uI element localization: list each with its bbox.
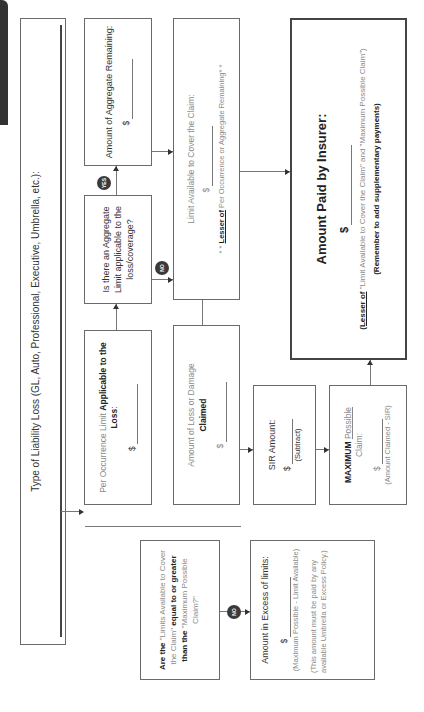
dark-tab	[0, 0, 8, 125]
divider-line	[240, 526, 241, 527]
arrow-to-paid	[367, 360, 373, 365]
excess-box: Amount in Excess of limits: $ (Maximum P…	[250, 540, 375, 680]
arrow-to-agg	[113, 166, 119, 171]
amount-claimed-dollar: $	[215, 444, 225, 449]
aggregate-remaining-field[interactable]	[123, 59, 133, 119]
aggregate-remaining-box: Amount of Aggregate Remaining: $	[84, 18, 152, 166]
limit-available-text: Limit Available to Cover the Claim:	[186, 94, 197, 223]
excess-text: Amount in Excess of limits:	[259, 556, 271, 664]
per-occurrence-box: Per Occurrence Limit Applicable to the L…	[84, 330, 152, 505]
max-underline: Possible	[343, 407, 353, 439]
amount-claimed-field[interactable]	[217, 382, 227, 442]
connector-limit-to-paid	[240, 171, 290, 172]
arrow-to-limit	[168, 277, 173, 283]
per-occurrence-prefix: Per Occurrence Limit	[98, 411, 108, 493]
amount-claimed-box: Amount of Loss or Damage Claimed $	[173, 325, 240, 505]
maximum-possible-box: MAXIMUM Possible Claim: $ (Amount Claime…	[329, 385, 407, 505]
sir-text: SIR Amount:	[266, 420, 278, 471]
max-dollar: $	[372, 466, 382, 471]
amount-claimed-text: Amount of Loss or Damage	[186, 363, 197, 466]
excess-field[interactable]	[281, 577, 291, 637]
arrow-agg-to-limit	[168, 149, 173, 155]
paid-dollar: $	[338, 227, 350, 233]
per-occurrence-dollar: $	[127, 446, 137, 451]
arrow-to-per	[79, 509, 84, 515]
max-bold: MAXIMUM	[343, 441, 353, 483]
excess-note: (This amount must be paid by any availab…	[309, 547, 329, 673]
aggregate-question-text: Is there an Aggregate Limit applicable t…	[100, 202, 136, 297]
arrow-to-max	[324, 447, 329, 453]
arrow-to-q	[113, 304, 119, 309]
sir-amount-box: SIR Amount: $ (Subtract)	[253, 385, 316, 505]
max-note: (Amount Claimed - SIR)	[383, 405, 393, 485]
max-claim: Claim:	[354, 433, 365, 457]
no-badge-1: NO	[155, 261, 169, 275]
amount-paid-box: Amount Paid by Insurer: $ (Lesser of "Li…	[290, 18, 407, 360]
limits-q-part1: Are the	[158, 640, 167, 670]
flowchart-canvas: Type of Liability Loss (GL, Auto, Profes…	[0, 0, 424, 712]
yes-label: YES	[101, 178, 107, 188]
max-field[interactable]	[373, 419, 383, 464]
amount-paid-title: Amount Paid by Insurer:	[314, 114, 329, 265]
paid-lesser-rest: "Limit Available to Cover the Claim" and…	[358, 48, 367, 291]
no-label-1: NO	[159, 264, 165, 272]
limit-available-box: Limit Available to Cover the Claim: $ * …	[173, 18, 240, 300]
arrow-limit-to-paid	[285, 169, 290, 175]
arrow-to-sir	[248, 447, 253, 453]
no-badge-2: NO	[227, 605, 241, 619]
sir-note: (Subtract)	[293, 429, 303, 462]
per-occurrence-field[interactable]	[128, 384, 138, 444]
yes-badge: YES	[97, 176, 111, 190]
connector-limit-to-claimed	[202, 300, 203, 325]
limits-q-part4: "Maximum Possible Claim?"	[180, 558, 200, 628]
limit-available-field[interactable]	[203, 126, 213, 186]
paid-reminder: (Remember to add supplementary payments)	[372, 103, 383, 275]
paid-lesser-bold: (Lesser of	[358, 292, 367, 330]
sir-field[interactable]	[283, 419, 293, 464]
aggregate-question-box: Is there an Aggregate Limit applicable t…	[84, 195, 152, 304]
aggregate-remaining-text: Amount of Aggregate Remaining:	[103, 26, 115, 159]
sir-dollar: $	[282, 466, 292, 471]
title-underline	[60, 25, 62, 637]
limit-available-dollar: $	[201, 188, 211, 193]
limit-note-rest: Per Occurrence or Aggregate Remaining* *	[217, 65, 226, 211]
excess-dollar: $	[279, 639, 289, 644]
arrow-to-excess	[245, 609, 250, 615]
title-text: Type of Liability Loss (GL, Auto, Profes…	[29, 171, 43, 492]
limit-note-prefix: * *	[217, 243, 226, 253]
section-divider	[85, 526, 240, 527]
limits-question-box: Are the "Limits Available to Cover the C…	[140, 540, 220, 680]
limit-note-bold: Lesser of	[217, 210, 226, 243]
paid-field[interactable]	[342, 145, 352, 225]
excess-formula: (Maximum Possible - Limit Available)	[291, 549, 301, 671]
aggregate-remaining-dollar: $	[121, 121, 131, 126]
amount-claimed-bold: Claimed	[198, 398, 209, 431]
per-occurrence-suffix: :	[109, 406, 119, 408]
no-label-2: NO	[231, 608, 237, 616]
